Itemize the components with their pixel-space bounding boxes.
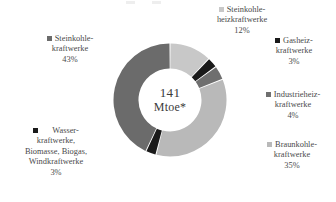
label-industrieheizkraftwerke: Industrieheiz- kraftwerke 4%	[252, 90, 334, 121]
donut-slice-braunkohlekraftwerke[interactable]	[156, 80, 226, 157]
label-line-1: Steinkohle-	[186, 5, 298, 15]
legend-swatch-icon	[47, 36, 52, 41]
donut-svg	[113, 43, 227, 157]
label-gasheizkraftwerke: Gasheiz- kraftwerke 3%	[256, 36, 332, 67]
legend-swatch-icon	[266, 92, 271, 97]
label-erneuerbare-energien: Wasser- kraftwerke, Biomasse, Biogas, Wi…	[2, 126, 110, 178]
donut-slice-steinkohlekraftwerke[interactable]	[113, 44, 169, 151]
label-line-2: heizkraftwerke	[186, 15, 298, 25]
label-line-2: kraftwerke	[26, 44, 114, 54]
donut-chart	[113, 43, 227, 157]
label-line-3: Biomasse, Biogas,	[2, 147, 110, 157]
label-steinkohlekraftwerke: Steinkohle- kraftwerke 43%	[26, 34, 114, 65]
legend-swatch-icon	[33, 128, 38, 133]
label-line-4: Windkraftwerke	[2, 157, 110, 167]
label-value: 3%	[2, 168, 110, 178]
label-value: 3%	[256, 57, 332, 67]
label-value: 35%	[250, 161, 334, 171]
label-line-1: Wasser-	[2, 126, 110, 136]
label-line-1: Industrieheiz-	[252, 90, 334, 100]
legend-swatch-icon	[267, 142, 272, 147]
chart-container: 141 Mtoe* Steinkohle- heizkraftwerke 12%…	[0, 0, 336, 202]
label-line-2: kraftwerke	[250, 150, 334, 160]
legend-swatch-icon	[275, 38, 280, 43]
label-steinkohleheizkraftwerke: Steinkohle- heizkraftwerke 12%	[186, 5, 298, 36]
label-line-2: kraftwerke	[256, 46, 332, 56]
label-line-1: Steinkohle-	[26, 34, 114, 44]
label-value: 4%	[252, 111, 334, 121]
label-line-1: Braunkohle-	[250, 140, 334, 150]
label-line-1: Gasheiz-	[256, 36, 332, 46]
label-line-2: kraftwerke	[252, 100, 334, 110]
label-value: 43%	[26, 55, 114, 65]
label-line-2: kraftwerke,	[2, 136, 110, 146]
label-braunkohlekraftwerke: Braunkohle- kraftwerke 35%	[250, 140, 334, 171]
label-value: 12%	[186, 26, 298, 36]
legend-swatch-icon	[219, 7, 224, 12]
